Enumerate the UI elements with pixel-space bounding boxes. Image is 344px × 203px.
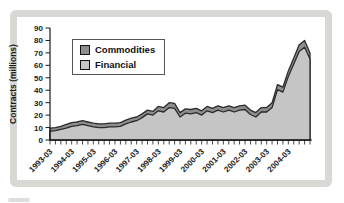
y-tick-labels: 0102030405060708090 [34,24,43,145]
y-tick-label: 0 [39,136,44,145]
x-tick-label: 2004-03 [266,147,294,175]
figure-stage: 0102030405060708090 1993-031994-031995-0… [0,0,344,203]
legend-item-financial: Financial [80,59,155,70]
y-tick-label: 70 [34,49,43,58]
legend: Commodities Financial [72,39,165,75]
chart-svg: 0102030405060708090 1993-031994-031995-0… [0,0,344,203]
y-tick-label: 60 [34,61,43,70]
y-tick-label: 80 [34,36,43,45]
y-tick-label: 40 [34,86,43,95]
y-tick-label: 50 [34,74,43,83]
y-tick-label: 10 [34,124,43,133]
y-axis-title: Contracts (millions) [8,44,18,124]
legend-item-commodities: Commodities [80,44,155,55]
y-tick-label: 90 [34,24,43,33]
financial-swatch-icon [80,60,90,70]
legend-label-commodities: Commodities [95,44,155,55]
legend-label-financial: Financial [95,59,136,70]
commodities-swatch-icon [80,45,90,55]
y-tick-label: 20 [34,111,43,120]
x-tick-labels: 1993-031994-031995-031996-031997-031998-… [27,147,293,175]
y-tick-label: 30 [34,99,43,108]
cropped-caption-artifact [8,198,30,202]
